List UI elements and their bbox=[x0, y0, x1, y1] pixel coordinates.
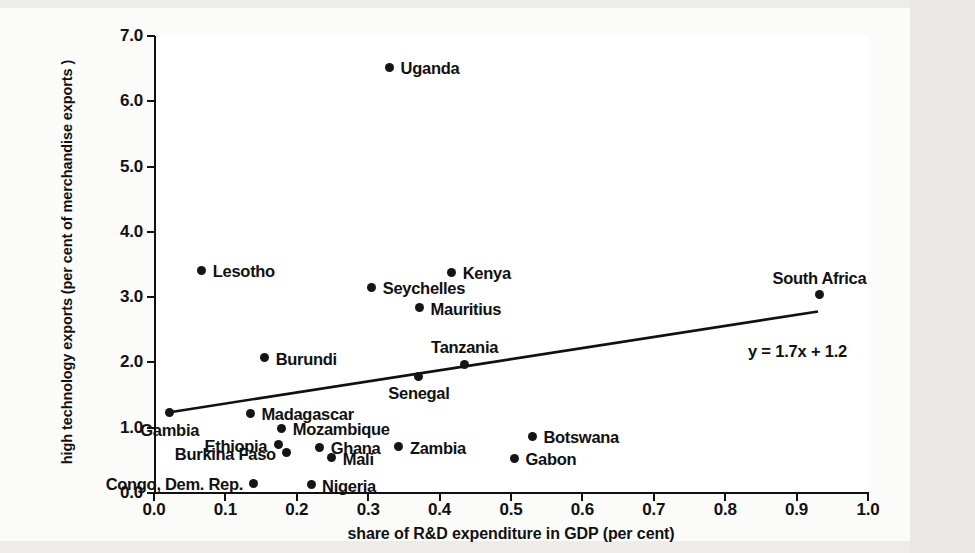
x-axis-title: share of R&D expenditure in GDP (per cen… bbox=[154, 525, 868, 543]
data-point-label: Gambia bbox=[140, 422, 199, 439]
x-tick-label-0.3: 0.3 bbox=[343, 500, 393, 520]
y-tick-label-wrap: 4.0 bbox=[95, 222, 143, 242]
data-point bbox=[510, 454, 519, 463]
x-tick-label-0.0: 0.0 bbox=[129, 500, 179, 520]
x-tick-label-0.5: 0.5 bbox=[486, 500, 536, 520]
y-tick-4.0 bbox=[147, 231, 155, 233]
y-tick-label-wrap: 7.0 bbox=[95, 26, 143, 46]
data-point-label: Seychelles bbox=[383, 280, 465, 297]
x-tick-label-0.8: 0.8 bbox=[700, 500, 750, 520]
y-tick-label-7.0: 7.0 bbox=[99, 26, 143, 46]
y-tick-2.0 bbox=[147, 361, 155, 363]
data-point bbox=[447, 268, 456, 277]
data-point bbox=[246, 409, 255, 418]
data-point-label: Mozambique bbox=[293, 421, 390, 438]
data-point-label: Botswana bbox=[543, 429, 619, 446]
y-tick-label-wrap: 3.0 bbox=[95, 287, 143, 307]
figure-canvas: 0.01.02.03.04.05.06.07.0 0.00.10.20.30.4… bbox=[0, 8, 910, 541]
y-tick-label-5.0: 5.0 bbox=[99, 157, 143, 177]
y-tick-label-wrap: 1.0 bbox=[95, 418, 143, 438]
x-tick-label-1.0: 1.0 bbox=[843, 500, 893, 520]
y-tick-label-wrap: 6.0 bbox=[95, 91, 143, 111]
y-tick-label-4.0: 4.0 bbox=[99, 222, 143, 242]
data-point-label: Lesotho bbox=[213, 263, 275, 280]
trendline-equation-label: y = 1.7x + 1.2 bbox=[748, 342, 847, 361]
data-point-label: Burundi bbox=[276, 351, 337, 368]
x-tick-label-0.6: 0.6 bbox=[557, 500, 607, 520]
y-tick-label-wrap: 5.0 bbox=[95, 157, 143, 177]
data-point-label: Gabon bbox=[526, 451, 577, 468]
data-point bbox=[315, 443, 324, 452]
y-tick-5.0 bbox=[147, 166, 155, 168]
data-point-label: Zambia bbox=[410, 439, 466, 456]
data-point-label: Mauritius bbox=[431, 300, 502, 317]
data-point bbox=[385, 63, 394, 72]
y-tick-label-1.0: 1.0 bbox=[99, 418, 143, 438]
data-point-label: Kenya bbox=[463, 265, 511, 282]
y-tick-label-6.0: 6.0 bbox=[99, 91, 143, 111]
data-point-label: Burkina Faso bbox=[175, 445, 276, 462]
y-tick-label-3.0: 3.0 bbox=[99, 287, 143, 307]
y-axis-title: high technology exports (per cent of mer… bbox=[59, 47, 75, 477]
data-point bbox=[307, 480, 316, 489]
page-right-margin bbox=[910, 0, 975, 553]
data-point bbox=[815, 290, 824, 299]
x-tick-label-0.9: 0.9 bbox=[772, 500, 822, 520]
data-point-label: Uganda bbox=[401, 60, 460, 77]
y-tick-3.0 bbox=[147, 296, 155, 298]
data-point-label: Senegal bbox=[388, 385, 449, 402]
data-point-label: Congo, Dem. Rep. bbox=[106, 476, 243, 493]
data-point bbox=[460, 360, 469, 369]
chart-screenshot: 0.01.02.03.04.05.06.07.0 0.00.10.20.30.4… bbox=[0, 0, 975, 553]
data-point-label: Mali bbox=[343, 450, 374, 467]
x-tick-label-0.1: 0.1 bbox=[200, 500, 250, 520]
x-tick-label-0.7: 0.7 bbox=[629, 500, 679, 520]
data-point-label: Nigeria bbox=[322, 477, 376, 494]
data-point bbox=[528, 432, 537, 441]
y-tick-label-wrap: 2.0 bbox=[95, 352, 143, 372]
y-tick-7.0 bbox=[147, 35, 155, 37]
x-tick-label-0.4: 0.4 bbox=[415, 500, 465, 520]
data-point-label: South Africa bbox=[772, 269, 866, 286]
x-tick-label-0.2: 0.2 bbox=[272, 500, 322, 520]
y-tick-6.0 bbox=[147, 100, 155, 102]
y-tick-label-2.0: 2.0 bbox=[99, 352, 143, 372]
data-point bbox=[414, 372, 423, 381]
data-point-label: Tanzania bbox=[431, 339, 498, 356]
